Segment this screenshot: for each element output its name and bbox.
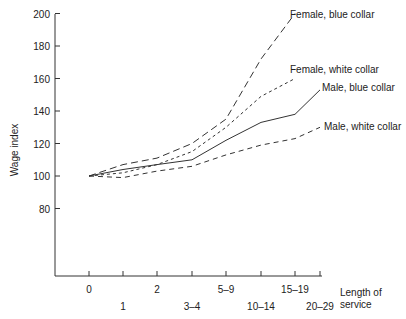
- series-lines: [89, 14, 320, 178]
- x-axis-label-line2: service: [340, 299, 372, 310]
- x-tick-label: 10–14: [247, 301, 275, 312]
- x-tick-label: 5–9: [218, 284, 235, 295]
- y-tick-label: 160: [33, 74, 50, 85]
- y-tick-label: 140: [33, 106, 50, 117]
- x-tick-label: 2: [154, 284, 160, 295]
- x-axis: 0123–45–910–1415–1920–29 Length of servi…: [55, 271, 382, 312]
- y-axis-label: Wage index: [9, 124, 20, 176]
- y-tick-label: 180: [33, 41, 50, 52]
- x-tick-label: 20–29: [306, 301, 334, 312]
- series-labels: Female, blue collarFemale, white collarM…: [290, 9, 402, 132]
- x-tick-label: 15–19: [281, 284, 309, 295]
- y-tick-label: 200: [33, 9, 50, 20]
- series-label: Female, white collar: [290, 64, 380, 75]
- y-tick-label: 120: [33, 139, 50, 150]
- y-axis: 80100120140160180200 Wage index: [9, 9, 60, 277]
- x-tick-label: 3–4: [184, 301, 201, 312]
- x-axis-label-line1: Length of: [340, 287, 382, 298]
- x-tick-label: 1: [120, 301, 126, 312]
- series-label: Male, white collar: [324, 121, 402, 132]
- x-tick-label: 0: [86, 284, 92, 295]
- line-chart: 80100120140160180200 Wage index 0123–45–…: [0, 0, 406, 319]
- series-line: [89, 90, 320, 176]
- series-line: [89, 79, 295, 177]
- y-tick-label: 100: [33, 171, 50, 182]
- y-tick-label: 80: [39, 204, 51, 215]
- series-label: Female, blue collar: [290, 9, 375, 20]
- series-label: Male, blue collar: [322, 82, 395, 93]
